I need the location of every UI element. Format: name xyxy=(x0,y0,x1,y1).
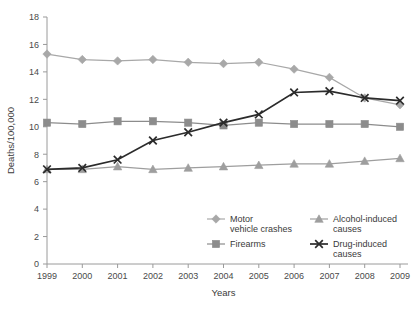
legend-item[interactable]: Firearms xyxy=(207,239,266,249)
series-line xyxy=(47,91,400,169)
legend-label-cont: causes xyxy=(333,249,362,259)
y-axis-tick-label: 14 xyxy=(29,67,39,77)
legend-label-cont: causes xyxy=(333,224,362,234)
data-point-diamond xyxy=(149,55,157,63)
data-point-diamond xyxy=(43,50,51,58)
x-axis-tick-label: 2002 xyxy=(143,271,163,281)
data-point-square xyxy=(185,119,192,126)
data-point-square xyxy=(114,118,121,125)
data-point-diamond xyxy=(78,55,86,63)
x-axis-title: Years xyxy=(212,287,236,298)
y-axis-tick-label: 10 xyxy=(29,122,39,132)
series-4 xyxy=(43,87,404,173)
data-point-diamond xyxy=(184,58,192,66)
series-3 xyxy=(43,154,404,173)
x-axis-tick-label: 2001 xyxy=(108,271,128,281)
data-point-square xyxy=(79,120,86,127)
y-axis-tick-label: 6 xyxy=(34,177,39,187)
data-point-square xyxy=(43,119,50,126)
y-axis-tick-label: 2 xyxy=(34,232,39,242)
y-axis-tick-label: 12 xyxy=(29,95,39,105)
x-axis-tick-label: 2003 xyxy=(178,271,198,281)
legend-label-cont: vehicle crashes xyxy=(230,224,293,234)
data-point-diamond xyxy=(113,57,121,65)
series-1 xyxy=(43,50,404,109)
x-axis-tick-label: 2009 xyxy=(390,271,410,281)
chart-canvas: 0246810121416181999200020012002200320042… xyxy=(0,0,414,315)
data-point-square xyxy=(326,120,333,127)
y-axis-tick-label: 8 xyxy=(34,150,39,160)
y-axis-tick-label: 4 xyxy=(34,204,39,214)
legend-label: Alcohol-induced xyxy=(333,214,397,224)
legend-label: Firearms xyxy=(230,239,266,249)
x-axis-tick-label: 2005 xyxy=(249,271,269,281)
data-point-diamond xyxy=(212,215,220,223)
x-axis-tick-label: 2004 xyxy=(213,271,233,281)
x-axis-tick-label: 2000 xyxy=(72,271,92,281)
data-point-square xyxy=(291,120,298,127)
data-point-square xyxy=(361,120,368,127)
legend-item[interactable]: Motorvehicle crashes xyxy=(207,214,293,234)
data-point-diamond xyxy=(255,58,263,66)
line-chart: 0246810121416181999200020012002200320042… xyxy=(0,0,414,315)
x-axis-tick-label: 2007 xyxy=(319,271,339,281)
x-axis-tick-label: 2008 xyxy=(355,271,375,281)
legend-label: Drug-induced xyxy=(333,239,387,249)
data-point-diamond xyxy=(290,65,298,73)
data-point-diamond xyxy=(219,59,227,67)
legend-label: Motor xyxy=(230,214,253,224)
legend-item[interactable]: Alcohol-inducedcauses xyxy=(310,214,397,234)
x-axis-tick-label: 2006 xyxy=(284,271,304,281)
x-axis-tick-label: 1999 xyxy=(37,271,57,281)
chart-legend: Motorvehicle crashesFirearmsAlcohol-indu… xyxy=(207,214,397,259)
y-axis-tick-label: 0 xyxy=(34,259,39,269)
data-point-square xyxy=(149,118,156,125)
series-2 xyxy=(43,118,403,131)
data-point-diamond xyxy=(325,73,333,81)
data-point-triangle xyxy=(396,154,404,162)
data-point-square xyxy=(255,119,262,126)
y-axis-tick-label: 16 xyxy=(29,40,39,50)
y-axis-title: Deaths/100,000 xyxy=(5,107,16,174)
data-point-square xyxy=(396,123,403,130)
y-axis-tick-label: 18 xyxy=(29,12,39,22)
data-point-square xyxy=(212,240,219,247)
legend-item[interactable]: Drug-inducedcauses xyxy=(310,239,387,259)
